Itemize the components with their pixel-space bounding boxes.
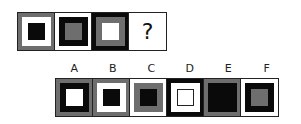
inner-square — [103, 89, 120, 106]
middle-square — [134, 83, 163, 112]
inner-square — [28, 23, 45, 40]
sequence-cell-1 — [18, 13, 55, 50]
middle-square — [59, 17, 88, 46]
middle-square — [208, 83, 237, 112]
option-a[interactable] — [56, 79, 93, 116]
option-e[interactable] — [204, 79, 241, 116]
option-label-d: D — [171, 62, 210, 75]
inner-square — [102, 23, 119, 40]
options-row — [55, 78, 279, 117]
option-d[interactable] — [167, 79, 204, 116]
inner-square — [140, 89, 157, 106]
option-label-f: F — [248, 62, 287, 75]
option-label-a: A — [55, 62, 94, 75]
option-f[interactable] — [241, 79, 278, 116]
middle-square — [96, 17, 125, 46]
option-label-b: B — [94, 62, 133, 75]
sequence-row: ? — [17, 12, 167, 51]
option-b[interactable] — [93, 79, 130, 116]
middle-square — [97, 83, 126, 112]
inner-square — [251, 89, 268, 106]
inner-square — [66, 89, 83, 106]
middle-square — [22, 17, 51, 46]
question-mark: ? — [142, 21, 154, 43]
middle-square — [171, 83, 200, 112]
inner-square — [65, 23, 82, 40]
option-label-c: C — [132, 62, 171, 75]
option-labels: A B C D E F — [55, 62, 286, 75]
sequence-cell-3 — [92, 13, 129, 50]
middle-square — [60, 83, 89, 112]
inner-square — [214, 89, 231, 106]
option-c[interactable] — [130, 79, 167, 116]
sequence-cell-question: ? — [129, 13, 166, 50]
inner-square — [177, 89, 194, 106]
option-label-e: E — [209, 62, 248, 75]
middle-square — [245, 83, 274, 112]
sequence-cell-2 — [55, 13, 92, 50]
